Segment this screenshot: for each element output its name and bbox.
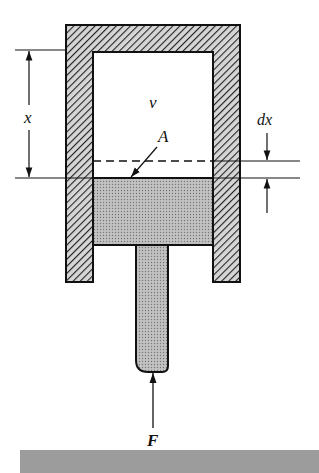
piston-rod [136, 245, 168, 372]
force-arrow: F [146, 373, 159, 450]
label-force: F [146, 431, 159, 450]
piston-cylinder-diagram: x dx v A F [0, 0, 319, 473]
label-x: x [23, 108, 32, 127]
label-dx: dx [257, 111, 272, 128]
label-area: A [157, 127, 169, 146]
bottom-bar [20, 450, 319, 473]
area-leader-arrow [131, 147, 157, 177]
dimension-x: x [15, 50, 66, 177]
dimension-dx: dx [257, 111, 272, 213]
piston [93, 178, 213, 245]
label-volume: v [149, 93, 157, 112]
